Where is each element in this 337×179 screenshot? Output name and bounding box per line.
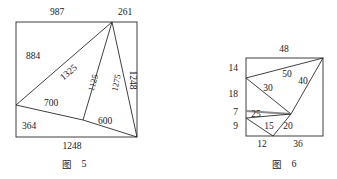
figure-6-label-40: 40 [298, 76, 308, 86]
figure-6-label-18: 18 [229, 89, 239, 99]
figure-5-caption-cjk: 图 [62, 159, 72, 170]
figure-5-group: 987 261 884 364 1248 1248 1325 1125 1275… [16, 7, 138, 169]
figure-5-label-1248-bottom: 1248 [63, 141, 82, 151]
figure-5-label-700: 700 [44, 98, 59, 108]
figure-5-label-261: 261 [118, 7, 133, 17]
figure-5-edge-apex-to-left [16, 22, 112, 105]
figure-6-label-7: 7 [233, 107, 238, 117]
diagram-canvas: 987 261 884 364 1248 1248 1325 1125 1275… [0, 0, 337, 179]
figure-6-caption-cjk: 图 [272, 159, 282, 170]
figure-6-label-20: 20 [283, 121, 293, 131]
figure-5-caption-number: 5 [82, 158, 87, 169]
figures-root: 987 261 884 364 1248 1248 1325 1125 1275… [0, 0, 337, 179]
figure-6-label-25: 25 [251, 109, 261, 119]
figure-6-label-15: 15 [264, 121, 274, 131]
figure-5-label-1275: 1275 [109, 73, 122, 92]
figure-5-label-1248-right: 1248 [128, 71, 138, 90]
figure-6-label-50: 50 [282, 69, 292, 79]
figure-5-label-364: 364 [22, 121, 37, 131]
figure-6-label-36: 36 [293, 139, 303, 149]
figure-5-label-987: 987 [50, 7, 65, 17]
figure-6-label-30: 30 [263, 83, 273, 93]
figure-5-edge-apex-to-inner [83, 22, 112, 120]
figure-6-label-12: 12 [257, 139, 267, 149]
figure-6-group: 48 14 18 7 9 12 36 50 40 30 25 15 20 图 6 [229, 44, 324, 169]
figure-5-label-1325: 1325 [58, 62, 79, 82]
figure-6-caption-number: 6 [292, 158, 297, 169]
figure-5-label-600: 600 [98, 116, 113, 126]
figure-6-label-9: 9 [233, 121, 238, 131]
figure-5-label-1125: 1125 [86, 73, 100, 92]
figure-6-label-14: 14 [229, 63, 239, 73]
figure-5-label-884: 884 [26, 51, 41, 61]
figure-6-label-48: 48 [279, 44, 289, 54]
